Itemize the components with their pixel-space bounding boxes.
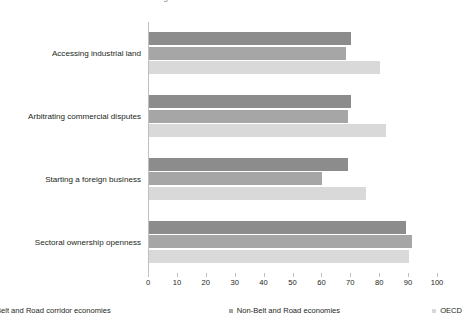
x-tick-label: 30 [230,278,238,287]
x-tick-mark [408,273,409,277]
x-tick-mark [379,273,380,277]
bar-group: Arbitrating commercial disputes [148,85,437,148]
legend-swatch-icon [229,309,233,313]
bar [149,32,351,45]
x-tick-mark [235,273,236,277]
bar-group: Starting a foreign business [148,148,437,211]
x-tick-label: 10 [173,278,181,287]
category-label: Sectoral ownership openness [35,237,141,246]
x-tick-label: 60 [317,278,325,287]
legend-label: Belt and Road corridor economies [0,306,111,315]
x-tick-label: 20 [202,278,210,287]
x-tick-mark [350,273,351,277]
legend-item[interactable]: Non-Belt and Road economies [229,306,340,315]
x-tick-mark [264,273,265,277]
bar-group: Sectoral ownership openness [148,210,437,273]
bar [149,47,346,60]
category-label: Starting a foreign business [45,174,141,183]
bar-group: Accessing industrial land [148,22,437,85]
x-tick-label: 90 [404,278,412,287]
x-tick-mark [321,273,322,277]
x-tick-label: 80 [375,278,383,287]
bar [149,250,409,263]
plot-area: 0102030405060708090100 Accessing industr… [148,22,437,273]
legend-item[interactable]: OECD [432,306,462,315]
legend-label: Non-Belt and Road economies [237,306,340,315]
x-tick-mark [293,273,294,277]
x-tick-label: 100 [431,278,444,287]
bar [149,158,348,171]
x-tick-label: 50 [288,278,296,287]
x-tick-mark [206,273,207,277]
legend-label: OECD [440,306,462,315]
bar [149,172,322,185]
chart-title: Figure: Investment climate indicators [0,0,450,2]
x-tick-mark [177,273,178,277]
chart-legend: Belt and Road corridor economiesNon-Belt… [0,306,450,315]
bar [149,124,386,137]
x-tick-mark [437,273,438,277]
x-tick-label: 70 [346,278,354,287]
bar [149,221,406,234]
bar [149,95,351,108]
x-tick-label: 0 [146,278,150,287]
bar [149,61,380,74]
bar [149,235,412,248]
bar [149,187,366,200]
legend-swatch-icon [432,309,436,313]
category-label: Accessing industrial land [52,49,141,58]
bar [149,110,348,123]
x-tick-mark [148,273,149,277]
legend-item[interactable]: Belt and Road corridor economies [0,306,111,315]
category-label: Arbitrating commercial disputes [28,112,141,121]
x-tick-label: 40 [259,278,267,287]
